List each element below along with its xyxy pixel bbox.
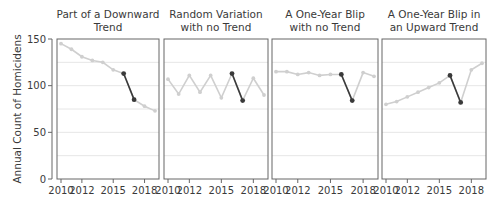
y-tick-label: 0 [40,174,46,185]
y-axis: 050100150 [27,34,52,185]
data-point [198,90,202,94]
series-line [386,63,482,104]
highlight-point [448,73,453,78]
data-point [177,92,181,96]
panel-title: A One-Year Blip [285,8,365,20]
x-tick-label: 2015 [427,185,452,196]
data-point [70,47,74,51]
data-point [307,71,311,75]
panel-title: an Upward Trend [390,21,479,33]
data-point [187,74,191,78]
x-tick-label: 2012 [177,185,202,196]
x-tick-label: 2015 [318,185,343,196]
panel-3: A One-Year Blipwith no Trend201020122015… [263,8,378,196]
x-tick-label: 2018 [241,185,266,196]
data-point [296,73,300,77]
panel-title: Trend [93,21,123,33]
series-line [168,74,264,101]
x-tick-label: 2018 [350,185,375,196]
data-point [405,95,409,99]
data-point [101,60,105,64]
y-tick-label: 50 [33,127,46,138]
x-tick-label: 2015 [100,185,125,196]
highlight-point [230,71,235,76]
data-point [143,104,147,108]
data-point [111,68,115,72]
highlight-segment [232,74,243,101]
data-point [153,109,157,113]
data-point [416,90,420,94]
highlight-point [132,97,137,102]
panel-4: A One-Year Blip inan Upward Trend2010201… [373,8,486,196]
data-point [480,61,484,65]
y-tick-label: 100 [27,80,46,91]
highlight-segment [450,75,461,102]
highlight-point [240,98,245,103]
x-tick-label: 2015 [209,185,234,196]
data-point [274,70,278,74]
data-point [209,74,213,78]
panel-title: A One-Year Blip in [388,8,481,20]
data-point [469,68,473,72]
data-point [251,76,255,80]
y-axis-label: Annual Count of Homicidens [11,34,23,183]
data-point [90,59,94,63]
data-point [318,74,322,78]
y-tick-label: 150 [27,34,46,45]
data-point [372,74,376,78]
data-point [285,70,289,74]
panel-title: with no Trend [290,21,361,33]
series-line [61,44,155,111]
data-point [427,86,431,90]
x-tick-label: 2018 [459,185,484,196]
data-point [437,81,441,85]
x-tick-label: 2012 [69,185,94,196]
highlight-segment [124,74,134,100]
data-point [262,93,266,97]
highlight-point [339,72,344,77]
panel-title: Random Variation [169,8,262,20]
x-tick-label: 2018 [132,185,157,196]
panels: Part of a DownwardTrend2010201220152018R… [48,8,486,196]
data-point [384,102,388,106]
panel-1: Part of a DownwardTrend2010201220152018 [48,8,159,196]
data-point [395,100,399,104]
highlight-segment [341,74,352,100]
panel-title: with no Trend [181,21,252,33]
data-point [80,55,84,59]
x-tick-label: 2012 [395,185,420,196]
small-multiples-chart: 050100150 Annual Count of Homicidens Par… [0,0,504,211]
data-point [59,42,63,46]
highlight-point [458,100,463,105]
data-point [219,96,223,100]
highlight-point [350,98,355,103]
highlight-point [121,71,126,76]
panel-title: Part of a Downward [57,8,160,20]
data-point [166,77,170,81]
x-tick-label: 2012 [285,185,310,196]
data-point [329,73,333,77]
panel-2: Random Variationwith no Trend20102012201… [155,8,268,196]
data-point [361,71,365,75]
